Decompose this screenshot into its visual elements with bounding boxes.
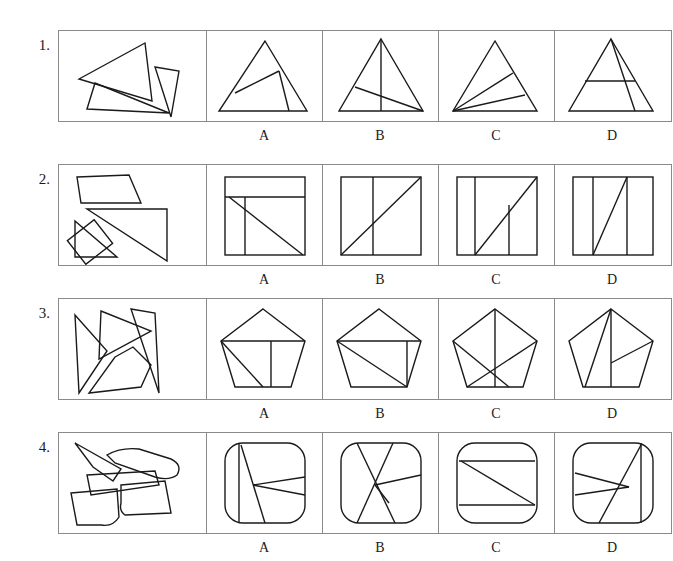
scattered-pieces-1 — [59, 31, 207, 121]
option-label-3B: B — [322, 402, 438, 421]
option-cell-3C[interactable] — [439, 299, 555, 399]
option-shape-4A — [207, 433, 323, 533]
option-label-4C: C — [438, 536, 554, 555]
row-number-2: 2. — [22, 172, 50, 187]
label-spacer-1 — [58, 124, 206, 143]
prompt-cell-4[interactable] — [59, 433, 207, 533]
prompt-cell-2[interactable] — [59, 165, 207, 265]
option-label-1D: D — [554, 124, 670, 143]
option-shape-3D — [555, 299, 671, 399]
option-cell-1B[interactable] — [323, 31, 439, 121]
prompt-cell-1[interactable] — [59, 31, 207, 121]
option-cell-3D[interactable] — [555, 299, 671, 399]
scattered-pieces-3 — [59, 299, 207, 399]
row-number-3: 3. — [22, 306, 50, 321]
option-labels-row-1: A B C D — [58, 124, 670, 143]
label-spacer-3 — [58, 402, 206, 421]
option-shape-3C — [439, 299, 555, 399]
option-label-4D: D — [554, 536, 670, 555]
option-label-4B: B — [322, 536, 438, 555]
row-number-4: 4. — [22, 440, 50, 455]
option-labels-row-2: A B C D — [58, 268, 670, 287]
scattered-pieces-4 — [59, 433, 207, 533]
row-strip-1 — [58, 30, 672, 122]
option-labels-row-4: A B C D — [58, 536, 670, 555]
option-shape-1C — [439, 31, 555, 121]
option-label-2A: A — [206, 268, 322, 287]
option-shape-4C — [439, 433, 555, 533]
option-cell-4D[interactable] — [555, 433, 671, 533]
option-cell-4C[interactable] — [439, 433, 555, 533]
option-shape-4D — [555, 433, 671, 533]
option-label-3A: A — [206, 402, 322, 421]
option-label-2C: C — [438, 268, 554, 287]
scattered-pieces-2 — [59, 165, 207, 265]
option-label-3D: D — [554, 402, 670, 421]
row-strip-2 — [58, 164, 672, 266]
option-cell-1D[interactable] — [555, 31, 671, 121]
option-shape-2A — [207, 165, 323, 265]
option-label-1A: A — [206, 124, 322, 143]
option-shape-1D — [555, 31, 671, 121]
option-label-3C: C — [438, 402, 554, 421]
option-cell-2A[interactable] — [207, 165, 323, 265]
option-cell-2C[interactable] — [439, 165, 555, 265]
row-number-1: 1. — [22, 38, 50, 53]
option-label-4A: A — [206, 536, 322, 555]
option-label-2D: D — [554, 268, 670, 287]
option-shape-2C — [439, 165, 555, 265]
option-shape-2B — [323, 165, 439, 265]
option-shape-2D — [555, 165, 671, 265]
option-cell-1C[interactable] — [439, 31, 555, 121]
row-strip-3 — [58, 298, 672, 400]
option-cell-3A[interactable] — [207, 299, 323, 399]
worksheet: 1. — [0, 0, 673, 561]
option-label-2B: B — [322, 268, 438, 287]
prompt-cell-3[interactable] — [59, 299, 207, 399]
row-strip-4 — [58, 432, 672, 534]
option-shape-3A — [207, 299, 323, 399]
option-cell-1A[interactable] — [207, 31, 323, 121]
option-cell-2D[interactable] — [555, 165, 671, 265]
option-shape-1A — [207, 31, 323, 121]
option-shape-3B — [323, 299, 439, 399]
option-cell-2B[interactable] — [323, 165, 439, 265]
option-labels-row-3: A B C D — [58, 402, 670, 421]
option-cell-4A[interactable] — [207, 433, 323, 533]
label-spacer-4 — [58, 536, 206, 555]
option-label-1C: C — [438, 124, 554, 143]
option-cell-4B[interactable] — [323, 433, 439, 533]
option-shape-1B — [323, 31, 439, 121]
option-shape-4B — [323, 433, 439, 533]
option-label-1B: B — [322, 124, 438, 143]
label-spacer-2 — [58, 268, 206, 287]
option-cell-3B[interactable] — [323, 299, 439, 399]
